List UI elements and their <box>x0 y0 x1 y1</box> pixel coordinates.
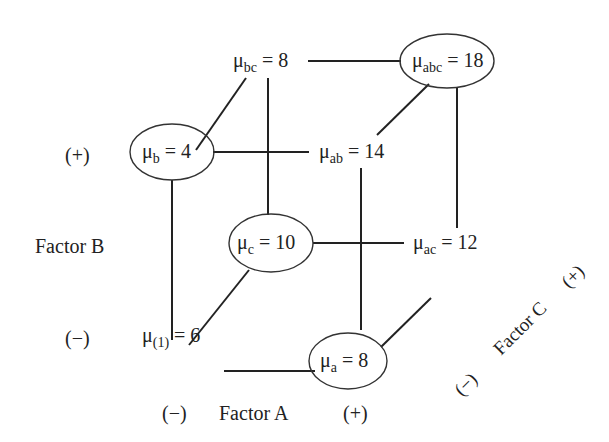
node-mu-ac: μac = 12 <box>413 232 477 257</box>
node-mu-ab: μab = 14 <box>319 141 384 166</box>
node-mu-a: μa = 8 <box>320 350 368 375</box>
node-mu-1: μ(1) = 6 <box>142 325 200 350</box>
factor-b-label: Factor B <box>35 236 104 256</box>
cube-edges <box>0 0 609 442</box>
factor-b-minus-label: (−) <box>65 328 90 348</box>
node-mu-c: μc = 10 <box>237 232 295 257</box>
node-mu-b: μb = 4 <box>142 141 191 166</box>
factor-b-plus-label: (+) <box>65 145 90 165</box>
node-mu-abc: μabc = 18 <box>412 50 483 75</box>
factor-a-label: Factor A <box>219 403 288 423</box>
node-mu-bc: μbc = 8 <box>233 50 288 75</box>
factor-a-plus-label: (+) <box>343 403 368 423</box>
factor-a-minus-label: (−) <box>162 403 187 423</box>
